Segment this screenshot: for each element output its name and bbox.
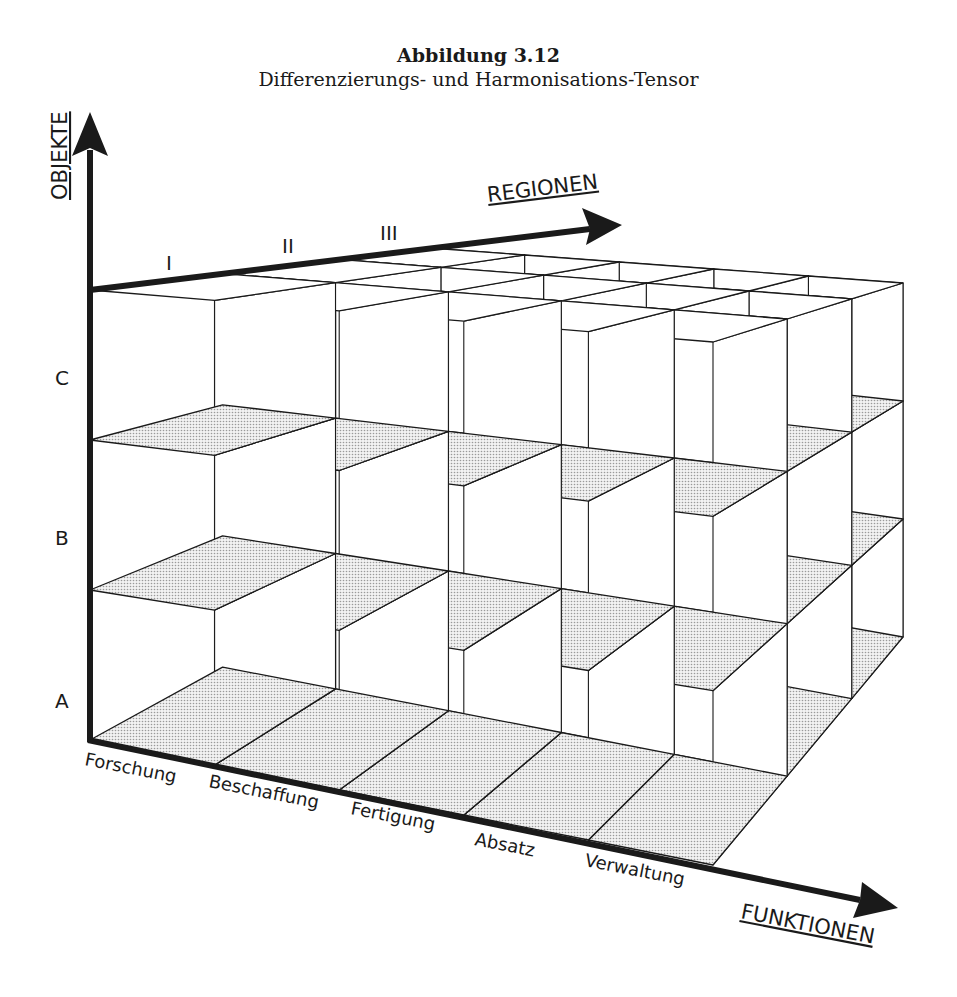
objekte-arrowhead-icon	[72, 112, 108, 156]
regionen-tick-i: I	[166, 251, 172, 275]
regionen-tick-iii: III	[380, 221, 398, 245]
regionen-tick-ii: II	[282, 234, 294, 258]
tensor-diagram: OBJEKTE REGIONEN FUNKTIONEN A B C I II I…	[0, 0, 957, 997]
objekte-axis-label: OBJEKTE	[48, 111, 72, 200]
regionen-axis-label: REGIONEN	[486, 170, 600, 207]
objekte-tick-b: B	[55, 526, 69, 550]
funktionen-axis-label: FUNKTIONEN	[739, 899, 877, 948]
objekte-tick-c: C	[55, 366, 69, 390]
objekte-tick-a: A	[55, 689, 69, 713]
